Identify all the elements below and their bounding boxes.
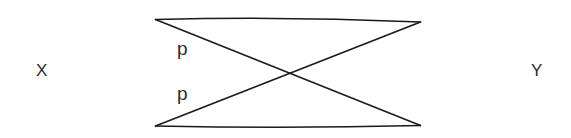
top-horizontal-edge [156, 18, 421, 22]
lower-edge-label: p [177, 84, 188, 103]
figure-canvas: X Y p p [0, 0, 571, 138]
bowtie-diagram [0, 0, 571, 138]
bottom-horizontal-edge [156, 126, 421, 128]
right-set-label: Y [531, 62, 543, 79]
upper-edge-label: p [177, 39, 188, 58]
left-set-label: X [36, 62, 48, 79]
